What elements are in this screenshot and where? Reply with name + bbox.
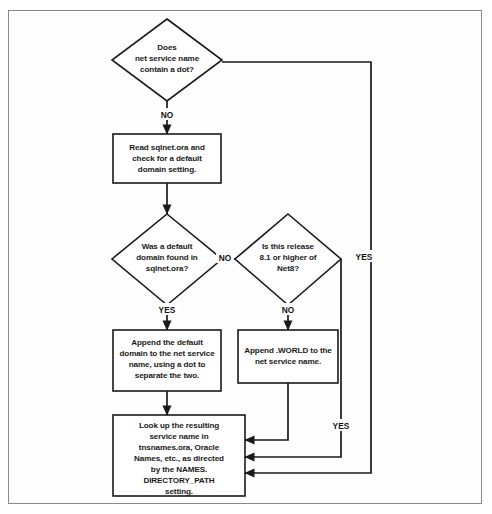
edge-label-dot-no: NO bbox=[161, 110, 174, 120]
process-append-world-line-1: net service name. bbox=[255, 357, 321, 366]
flowchart-figure: Does net service name contain a dot? Rea… bbox=[0, 0, 492, 514]
process-append-default-domain-line-0: Append the default bbox=[131, 338, 203, 347]
process-append-default-domain-line-3: separate the two. bbox=[135, 371, 199, 380]
edge-label-net8-no: NO bbox=[282, 305, 295, 315]
decision-net8-release-line-1: 8.1 or higher of bbox=[260, 253, 317, 262]
process-lookup-service-name-line-4: by the NAMES. bbox=[151, 465, 207, 474]
process-append-world-line-0: Append .WORLD to the bbox=[244, 346, 332, 355]
edge-label-dot-yes: YES bbox=[356, 252, 373, 262]
process-lookup-service-name-line-2: tnsnames.ora, Oracle bbox=[139, 443, 220, 452]
process-lookup-service-name-line-0: Look up the resulting bbox=[139, 421, 219, 430]
decision-contains-dot-line-0: Does bbox=[157, 43, 177, 52]
decision-default-domain-found-line-2: sqlnet.ora? bbox=[146, 264, 189, 273]
process-append-default-domain-line-2: name, using a dot to bbox=[129, 360, 206, 369]
process-lookup-service-name-line-6: setting. bbox=[165, 487, 193, 496]
decision-net8-release-line-2: Net8? bbox=[277, 264, 299, 273]
process-read-sqlnet-line-2: domain setting. bbox=[138, 165, 196, 174]
edge-append-world-to-lookup bbox=[245, 383, 288, 440]
decision-contains-dot-line-1: net service name bbox=[135, 54, 200, 63]
decision-default-domain-found-line-1: domain found in bbox=[136, 253, 198, 262]
process-append-default-domain-line-1: domain to the net service bbox=[119, 349, 215, 358]
decision-default-domain-found-line-0: Was a default bbox=[142, 242, 193, 251]
flowchart-canvas: Does net service name contain a dot? Rea… bbox=[0, 0, 492, 514]
edge-label-net8-yes: YES bbox=[333, 421, 350, 431]
process-read-sqlnet-line-1: check for a default bbox=[132, 154, 202, 163]
edge-label-default-domain-yes: YES bbox=[159, 305, 176, 315]
process-lookup-service-name-line-5: DIRECTORY_PATH bbox=[143, 476, 214, 485]
decision-net8-release-line-0: Is this release bbox=[262, 242, 315, 251]
process-lookup-service-name-line-3: Names, etc., as directed bbox=[134, 454, 224, 463]
edge-label-default-domain-no: NO bbox=[219, 253, 232, 263]
process-read-sqlnet-line-0: Read sqlnet.ora and bbox=[129, 143, 205, 152]
decision-contains-dot-line-2: contain a dot? bbox=[140, 65, 194, 74]
process-lookup-service-name-line-1: service name in bbox=[149, 432, 208, 441]
